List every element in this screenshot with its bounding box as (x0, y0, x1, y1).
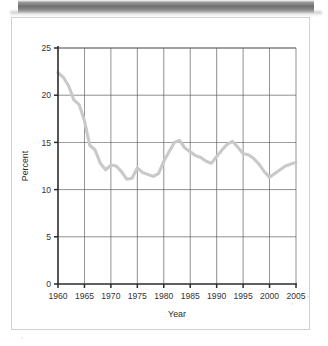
line-chart: 0510152025196019651970197519801985199019… (12, 18, 311, 331)
x-axis-tick-label: 1965 (75, 291, 94, 301)
x-axis-tick-label: 1985 (181, 291, 200, 301)
scan-artifact-shadow (10, 11, 322, 16)
y-axis-tick-label: 10 (41, 185, 51, 195)
x-axis-tick-label: 1990 (207, 291, 226, 301)
figure-card: 0510152025196019651970197519801985199019… (11, 17, 310, 330)
x-axis-tick-label: 1995 (234, 291, 253, 301)
chart-svg: 0510152025196019651970197519801985199019… (12, 18, 311, 331)
x-axis-tick-label: 1975 (128, 291, 147, 301)
x-axis-tick-label: 2005 (286, 291, 305, 301)
y-axis-tick-label: 25 (41, 43, 51, 53)
x-axis-tick-label: 2000 (260, 291, 279, 301)
y-axis-title: Percent (20, 150, 30, 181)
y-axis-tick-label: 5 (46, 232, 51, 242)
data-line-percent (58, 73, 296, 180)
x-axis-tick-label: 1970 (101, 291, 120, 301)
y-axis-tick-label: 20 (41, 90, 51, 100)
y-axis-tick-label: 0 (46, 279, 51, 289)
x-axis-tick-label: 1960 (48, 291, 67, 301)
y-axis-tick-label: 15 (41, 138, 51, 148)
x-axis-title: Year (168, 309, 186, 319)
x-axis-tick-label: 1980 (154, 291, 173, 301)
